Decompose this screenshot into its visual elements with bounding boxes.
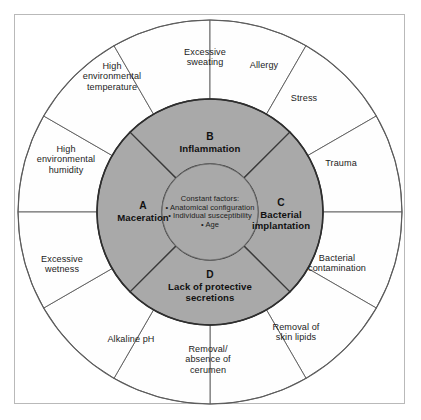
wheel-diagram-canvas — [0, 0, 421, 420]
figure-root: Excessive sweatingAllergyStressTraumaBac… — [0, 0, 421, 420]
core-circle — [162, 164, 258, 260]
